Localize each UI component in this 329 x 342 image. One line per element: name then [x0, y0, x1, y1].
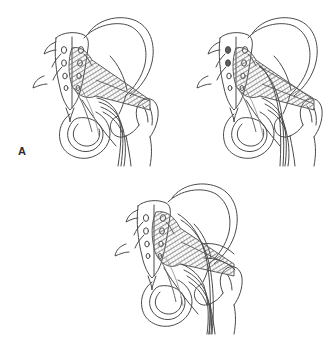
sacral-foramen-l2: [144, 228, 149, 234]
panel-a-label: A: [18, 146, 26, 157]
panel-a: A: [0, 4, 165, 169]
sacral-foramen-l3: [227, 73, 231, 79]
femoral-shaft-lateral: [234, 305, 236, 334]
femoral-shaft-medial: [126, 136, 131, 166]
sacral-nerve-root-l1: [134, 222, 143, 235]
femoral-shaft-lateral: [314, 137, 316, 166]
sacral-foramen-l1: [61, 47, 66, 54]
sacral-nerve-root-l1: [52, 54, 61, 67]
femoral-shaft-lateral: [150, 137, 152, 166]
panel-c: C: [82, 172, 247, 337]
femoral-neck: [126, 125, 139, 136]
sacral-foramen-l3: [63, 73, 67, 79]
coccyx-stub: [197, 76, 211, 88]
obturator-foramen-inner: [73, 124, 99, 146]
panel-c-illustration: [82, 172, 247, 337]
sacral-ala-left: [208, 42, 220, 54]
sacral-ala-left: [44, 42, 56, 54]
sacral-nerve-root-l1: [216, 54, 225, 67]
sacral-foramen-l4: [64, 86, 68, 91]
sacral-foramen-l3: [145, 241, 149, 247]
sacral-foramen-l2: [226, 60, 231, 66]
panel-b: B: [164, 4, 329, 169]
femoral-neck: [290, 125, 303, 136]
trochanter-texture-1: [227, 274, 232, 290]
sciatic-nerve-strand-1: [97, 98, 121, 166]
sacral-foramen-l4: [146, 254, 150, 259]
obturator-foramen-inner: [155, 292, 181, 314]
sacral-foramen-l2: [62, 60, 67, 66]
anatomy-figure: A: [0, 0, 329, 342]
femoral-neck: [210, 293, 223, 304]
femoral-shaft-medial: [290, 136, 295, 166]
panel-b-illustration: [164, 4, 329, 169]
coccyx-stub: [115, 244, 129, 256]
piriformis-muscle: [152, 212, 234, 306]
sacral-foramen-l1: [143, 215, 148, 222]
sacral-foramen-l4: [228, 86, 232, 91]
coccyx-stub: [33, 76, 47, 88]
obturator-foramen-inner: [237, 124, 263, 146]
sacral-ala-left: [126, 210, 138, 222]
sacral-foramen-l1: [225, 47, 230, 54]
